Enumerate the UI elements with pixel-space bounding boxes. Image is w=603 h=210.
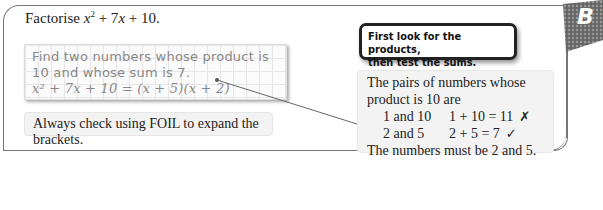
connector-line [0,0,603,210]
